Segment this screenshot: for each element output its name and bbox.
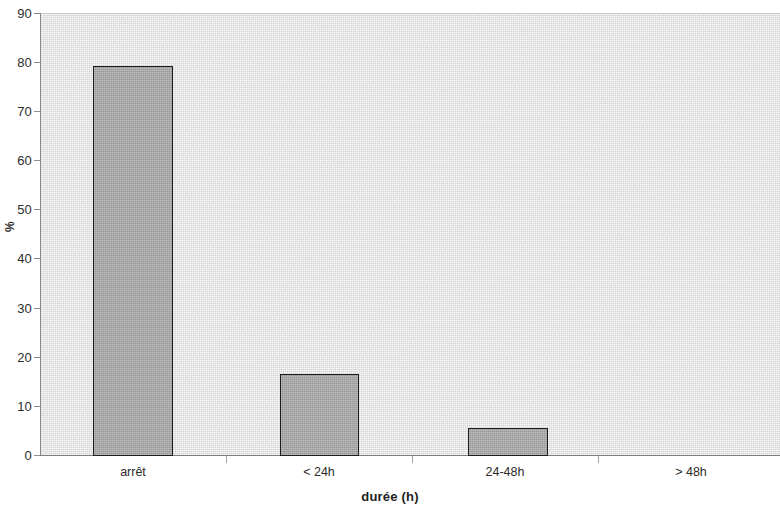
bar-arret bbox=[93, 66, 173, 456]
y-axis-tick-0 bbox=[34, 455, 40, 456]
x-axis-title: durée (h) bbox=[0, 489, 780, 504]
plot-top-border bbox=[40, 13, 780, 14]
x-axis-tick-label-lt-24h: < 24h bbox=[239, 466, 399, 479]
y-axis-tick-label-10: 10 bbox=[2, 400, 32, 413]
x-axis-tick-label-gt-48h: > 48h bbox=[611, 466, 771, 479]
y-axis-tick-label-50: 50 bbox=[2, 203, 32, 216]
y-axis-tick-label-70: 70 bbox=[2, 105, 32, 118]
y-axis-tick-50 bbox=[34, 209, 40, 210]
x-axis-tick-2 bbox=[412, 456, 413, 463]
x-axis-tick-1 bbox=[226, 456, 227, 463]
x-axis-tick-label-24-48h: 24-48h bbox=[425, 466, 585, 479]
y-axis-tick-40 bbox=[34, 258, 40, 259]
bar-texture bbox=[469, 429, 547, 455]
bar-lt-24h bbox=[280, 374, 359, 456]
y-axis-title: % bbox=[4, 221, 16, 232]
y-axis-tick-label-90: 90 bbox=[2, 7, 32, 20]
bar-chart-figure: 90 80 70 60 50 40 30 20 10 0 % arrêt < 2… bbox=[0, 0, 780, 510]
y-axis-tick-label-30: 30 bbox=[2, 302, 32, 315]
bar-texture bbox=[94, 67, 172, 455]
y-axis-tick-30 bbox=[34, 308, 40, 309]
y-axis-tick-label-0: 0 bbox=[2, 449, 32, 462]
y-axis-tick-10 bbox=[34, 406, 40, 407]
bar-24-48h bbox=[468, 428, 548, 456]
y-axis-tick-label-80: 80 bbox=[2, 56, 32, 69]
x-axis-tick-3 bbox=[598, 456, 599, 463]
y-axis-line bbox=[40, 13, 41, 456]
bar-texture bbox=[281, 375, 358, 455]
y-axis-tick-label-20: 20 bbox=[2, 351, 32, 364]
y-axis-tick-80 bbox=[34, 62, 40, 63]
y-axis-tick-70 bbox=[34, 111, 40, 112]
y-axis-tick-60 bbox=[34, 160, 40, 161]
x-axis-tick-label-arret: arrêt bbox=[53, 466, 213, 479]
y-axis-tick-20 bbox=[34, 357, 40, 358]
y-axis-tick-90 bbox=[34, 13, 40, 14]
y-axis-tick-label-60: 60 bbox=[2, 154, 32, 167]
y-axis-tick-label-40: 40 bbox=[2, 252, 32, 265]
